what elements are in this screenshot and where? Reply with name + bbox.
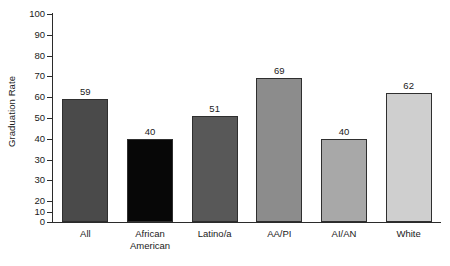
plot-area: 594051694062 (53, 14, 441, 222)
y-axis-tick (47, 222, 52, 223)
bar (321, 139, 367, 222)
y-axis-tick-label-wrap: 60 (0, 97, 45, 98)
x-axis-line (52, 222, 441, 223)
category-label-line-1: All (80, 228, 91, 239)
bar (127, 139, 173, 222)
y-axis-tick-label: 60 (1, 92, 45, 102)
category-label-line-1: AA/PI (267, 228, 291, 239)
y-axis-tick-label: 40 (1, 134, 45, 144)
y-axis-tick-label-wrap: 90 (0, 35, 45, 36)
y-axis-tick (47, 97, 52, 98)
bar-value-label: 51 (195, 103, 235, 114)
y-axis-tick-label-wrap: 0 (0, 222, 45, 223)
bar-value-label: 40 (324, 126, 364, 137)
bar-value-label: 40 (130, 126, 170, 137)
y-axis-tick-label: 30 (1, 175, 45, 185)
y-axis-tick-label: 0 (1, 217, 45, 227)
y-axis-tick (47, 56, 52, 57)
y-axis-tick-label: 30 (1, 155, 45, 165)
y-axis-tick-label-wrap: 100 (0, 14, 45, 15)
bar-value-label: 69 (259, 65, 299, 76)
y-axis-tick (47, 139, 52, 140)
y-axis-tick-label-wrap: 50 (0, 118, 45, 119)
y-axis-tick (47, 212, 52, 213)
bar-value-label: 59 (65, 86, 105, 97)
bar (256, 78, 302, 222)
bar-value-label: 62 (389, 80, 429, 91)
category-label-line-2: American (110, 240, 190, 252)
y-axis-tick-label: 70 (1, 71, 45, 81)
y-axis-tick (47, 160, 52, 161)
y-axis-tick-label: 10 (1, 207, 45, 217)
y-axis-tick (47, 35, 52, 36)
bar-chart: Graduation Rate 100908070605040303020100… (0, 0, 450, 266)
y-axis-tick-label: 100 (1, 9, 45, 19)
y-axis-tick-label-wrap: 80 (0, 56, 45, 57)
category-label-line-1: African (135, 228, 165, 239)
y-axis-tick-label: 90 (1, 30, 45, 40)
y-axis-tick (47, 118, 52, 119)
y-axis-tick-label-wrap: 30 (0, 180, 45, 181)
category-label-line-1: White (397, 228, 421, 239)
y-axis-tick-label-wrap: 70 (0, 76, 45, 77)
y-axis-tick-label-wrap: 20 (0, 201, 45, 202)
y-axis-tick-label-wrap: 10 (0, 212, 45, 213)
y-axis-tick (47, 14, 52, 15)
y-axis-tick-label-wrap: 30 (0, 160, 45, 161)
y-axis-tick (47, 201, 52, 202)
y-axis-tick (47, 180, 52, 181)
category-label-line-1: AI/AN (332, 228, 357, 239)
x-axis-category-label: White (369, 228, 449, 240)
category-label-line-1: Latino/a (198, 228, 232, 239)
y-axis-tick (47, 76, 52, 77)
bar (62, 99, 108, 222)
y-axis-tick-label-wrap: 40 (0, 139, 45, 140)
bar (386, 93, 432, 222)
y-axis-tick-label: 50 (1, 113, 45, 123)
bar (192, 116, 238, 222)
y-axis-tick-label: 80 (1, 51, 45, 61)
